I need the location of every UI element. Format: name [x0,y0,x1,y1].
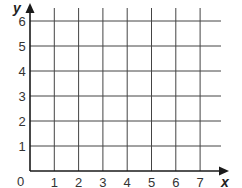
y-axis-label: y [12,0,22,16]
x-tick-7: 7 [196,175,203,188]
y-axis-arrow-icon [26,3,35,13]
y-tick-6: 6 [18,14,25,29]
x-axis-label: x [220,174,230,188]
x-tick-1: 1 [51,175,58,188]
y-tick-labels: 123456 [18,14,25,154]
y-tick-5: 5 [18,39,25,54]
coordinate-plane: 1234567 123456 0 x y [0,0,242,188]
x-tick-2: 2 [75,175,82,188]
y-tick-1: 1 [18,139,25,154]
y-tick-3: 3 [18,89,25,104]
x-tick-6: 6 [172,175,179,188]
y-tick-4: 4 [18,64,25,79]
origin-label: 0 [17,174,24,188]
x-tick-3: 3 [99,175,106,188]
vertical-gridlines [54,8,200,171]
x-tick-4: 4 [124,175,131,188]
y-tick-2: 2 [18,114,25,129]
x-tick-5: 5 [148,175,155,188]
horizontal-gridlines [30,21,221,146]
x-tick-labels: 1234567 [51,175,204,188]
